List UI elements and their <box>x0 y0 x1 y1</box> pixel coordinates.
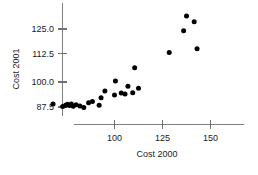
data-point <box>125 84 130 89</box>
scatter-plot-figure: 125.0 112.5 100.0 87.5 Cost 2001 100 125… <box>0 0 258 175</box>
data-point <box>167 50 172 55</box>
data-point <box>184 13 189 18</box>
data-point <box>51 101 56 106</box>
data-point <box>97 103 102 108</box>
data-point <box>90 99 95 104</box>
data-points-layer <box>51 12 258 110</box>
y-tick-label-100: 100.0 <box>31 77 54 87</box>
data-point <box>123 92 128 97</box>
y-tick-label-112.5: 112.5 <box>32 49 54 59</box>
data-point <box>99 95 104 100</box>
data-point <box>102 88 107 93</box>
data-point <box>192 19 197 24</box>
data-point <box>136 86 141 91</box>
data-point <box>81 105 86 110</box>
chart-canvas: 125.0 112.5 100.0 87.5 Cost 2001 100 125… <box>0 0 258 175</box>
data-point <box>130 90 135 95</box>
y-tick-label-125: 125.0 <box>31 24 54 34</box>
y-axis-title: Cost 2001 <box>11 48 21 89</box>
x-tick-label-150: 150 <box>203 133 218 143</box>
data-point <box>112 92 117 97</box>
x-tick-label-100: 100 <box>107 133 122 143</box>
data-point <box>132 65 137 70</box>
data-point <box>113 79 118 84</box>
data-point <box>181 28 186 33</box>
y-axis-group: 125.0 112.5 100.0 87.5 Cost 2001 <box>11 3 67 116</box>
x-axis-title: Cost 2000 <box>136 149 177 159</box>
data-point <box>195 46 200 51</box>
x-tick-label-125: 125 <box>155 133 170 143</box>
x-axis-group: 100 125 150 Cost 2000 <box>74 120 244 159</box>
